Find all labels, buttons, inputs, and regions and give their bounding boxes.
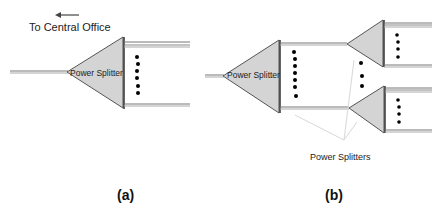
- panel-a: To Central Office Power Splitter (a): [10, 12, 190, 203]
- ellipsis-dots-b-lower: [396, 98, 401, 124]
- ellipsis-dots-b-middle: [359, 61, 364, 88]
- leader-lines: [295, 60, 357, 140]
- splitter-label-b: Power Splitter: [227, 70, 280, 80]
- ellipsis-dots-a: [135, 55, 140, 95]
- diagram-canvas: To Central Office Power Splitter (a) Pow…: [0, 0, 442, 211]
- splitter-label-a: Power Splitter: [70, 68, 123, 78]
- caption-b: (b): [325, 187, 343, 203]
- direction-label: To Central Office: [29, 21, 111, 33]
- left-arrow-icon: [55, 12, 79, 18]
- power-splitter-b-upper: [347, 20, 383, 67]
- caption-a: (a): [117, 187, 134, 203]
- annotation-label: Power Splitters: [310, 152, 371, 162]
- ellipsis-dots-b-upper: [395, 33, 400, 59]
- panel-b: Power Splitter: [205, 20, 432, 203]
- ellipsis-dots-b-main: [292, 50, 298, 98]
